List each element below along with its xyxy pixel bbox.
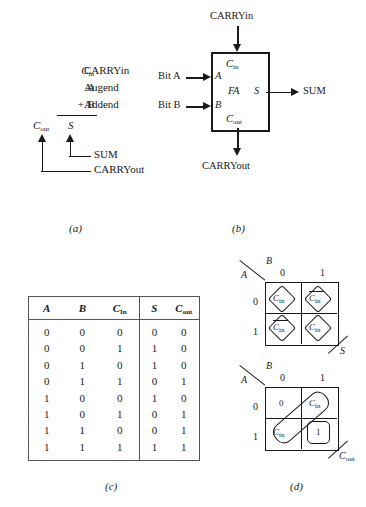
table-row: 11111: [29, 439, 200, 461]
cell-a: 0: [29, 341, 65, 357]
cell-cout: 0: [169, 341, 200, 357]
kmap-carryout-cell-11: 1: [316, 427, 321, 437]
block-label-fa: FA: [228, 85, 239, 96]
pin-b: B: [215, 99, 221, 110]
external-bit-b-label: Bit B: [158, 99, 180, 110]
th-a: A: [29, 297, 65, 320]
operand-addend-name: Addend: [84, 98, 119, 110]
panel-c-label: (c): [105, 480, 117, 492]
truth-table: A B CIn S Cout 00000 00110 01010 01101 1…: [28, 296, 200, 461]
sum-wire: [266, 92, 293, 94]
result-sum-symbol: S: [68, 119, 74, 131]
kmap-sum-cell-00-subscript: in: [279, 297, 284, 305]
pin-carryout: Cout: [226, 113, 242, 124]
cell-cout: 0: [169, 320, 200, 342]
kmap-carryout-col-var-b: B: [266, 360, 272, 371]
carryout-wire: [237, 128, 239, 150]
carryout-annotation-label: CARRYout: [94, 163, 144, 175]
pin-carryout-subscript: out: [233, 118, 242, 126]
kmap-carryout-output-subscript: out: [346, 455, 355, 463]
kmap-sum-cell-10: Cin: [273, 322, 284, 332]
external-sum-label: SUM: [303, 85, 326, 96]
carryout-arrow-elbow: [41, 171, 91, 173]
table-row: 00000: [29, 320, 200, 342]
cell-s: 0: [140, 374, 169, 390]
cell-s: 1: [140, 390, 169, 406]
kmap-carryout-cell-00: 0: [279, 398, 284, 408]
kmap-carryout-cell-01-subscript: in: [315, 402, 320, 410]
panel-b-label: (b): [232, 222, 245, 234]
result-carryout: Cout: [33, 119, 49, 131]
cell-s: 0: [140, 407, 169, 423]
kmap-carryout-row-var-a: A: [241, 374, 247, 385]
cell-cout: 1: [169, 374, 200, 390]
kmap-sum-cell-10-overbar: [273, 320, 288, 321]
external-bit-a-label: Bit A: [158, 70, 180, 81]
panel-c-truth-table: A B CIn S Cout 00000 00110 01010 01101 1…: [0, 255, 225, 507]
kmap-sum-row-header-1: 1: [253, 326, 258, 337]
kmap-sum-col-header-1: 1: [320, 267, 325, 278]
cell-cout: 1: [169, 439, 200, 461]
table-row: 10101: [29, 407, 200, 423]
kmap-sum-col-header-0: 0: [280, 267, 285, 278]
kmap-carryout-cell-10-subscript: in: [279, 431, 284, 439]
pin-carryin-symbol: C: [226, 58, 233, 69]
kmap-sum-row-header-0: 0: [253, 296, 258, 307]
cell-s: 1: [140, 341, 169, 357]
table-header-row: A B CIn S Cout: [29, 297, 200, 320]
sum-arrow-elbow: [69, 156, 91, 158]
cell-s: 1: [140, 439, 169, 461]
kmap-sum-cell-00: Cin: [273, 293, 284, 303]
cell-cin: 0: [100, 357, 139, 373]
result-carryout-subscript: out: [40, 125, 49, 133]
cell-b: 1: [64, 357, 100, 373]
kmap-carryout-row-header-1: 1: [253, 431, 258, 442]
th-b: B: [64, 297, 100, 320]
operand-augend-name: Augend: [84, 81, 119, 93]
th-cin-subscript: In: [120, 308, 127, 316]
th-cout-symbol: C: [175, 302, 182, 314]
kmap-sum-cell-01-subscript: in: [315, 297, 320, 305]
table-row: 11001: [29, 423, 200, 439]
kmap-sum-cell-01: Cin: [309, 293, 320, 303]
kmap-carryout-output-symbol: C: [339, 450, 346, 461]
carryout-arrowhead-icon-b: [233, 148, 241, 156]
kmap-carryout-cell-11-symbol: 1: [316, 427, 321, 437]
panel-d-label: (d): [290, 480, 303, 492]
kmap-carryout-cell-10: Cin: [273, 427, 284, 437]
external-carryout-label: CARRYout: [202, 160, 250, 171]
pin-carryin: Cin: [226, 58, 238, 69]
bit-a-arrowhead-icon: [203, 73, 211, 81]
pin-s: S: [254, 85, 259, 96]
cell-a: 1: [29, 439, 65, 461]
carryin-wire: [237, 26, 239, 46]
kmap-sum-output-label: S: [340, 345, 345, 356]
cell-cin: 1: [100, 374, 139, 390]
th-cout: Cout: [169, 297, 200, 320]
panel-d-karnaugh-maps: B A 0 1 0 1 Cin Cin Cin Cin: [225, 255, 366, 507]
kmap-carryout-col-header-0: 0: [280, 372, 285, 383]
cell-s: 1: [140, 357, 169, 373]
kmap-carryout-col-header-1: 1: [320, 372, 325, 383]
kmap-sum-cell-11: Cin: [309, 322, 320, 332]
pin-carryout-symbol: C: [226, 113, 233, 124]
cell-cout: 0: [169, 357, 200, 373]
pin-a: A: [215, 70, 221, 81]
th-s: S: [140, 297, 169, 320]
kmap-carryout-row-header-0: 0: [253, 401, 258, 412]
cell-cin: 0: [100, 423, 139, 439]
cell-cin: 1: [100, 407, 139, 423]
kmap-sum-cell-11-subscript: in: [315, 326, 320, 334]
kmap-sum-row-var-a: A: [241, 269, 247, 280]
kmap-carryout-output-label: Cout: [339, 450, 355, 461]
sum-arrowhead-icon-b: [291, 88, 299, 96]
bit-b-arrowhead-icon: [203, 102, 211, 110]
pin-carryin-subscript: in: [233, 63, 238, 71]
cell-a: 0: [29, 374, 65, 390]
cell-b: 0: [64, 320, 100, 342]
cell-s: 0: [140, 320, 169, 342]
th-cin-symbol: C: [113, 302, 120, 314]
cell-cin: 1: [100, 439, 139, 461]
kmap-sum-col-var-b: B: [266, 255, 272, 266]
carryout-arrow-stem: [42, 141, 44, 172]
